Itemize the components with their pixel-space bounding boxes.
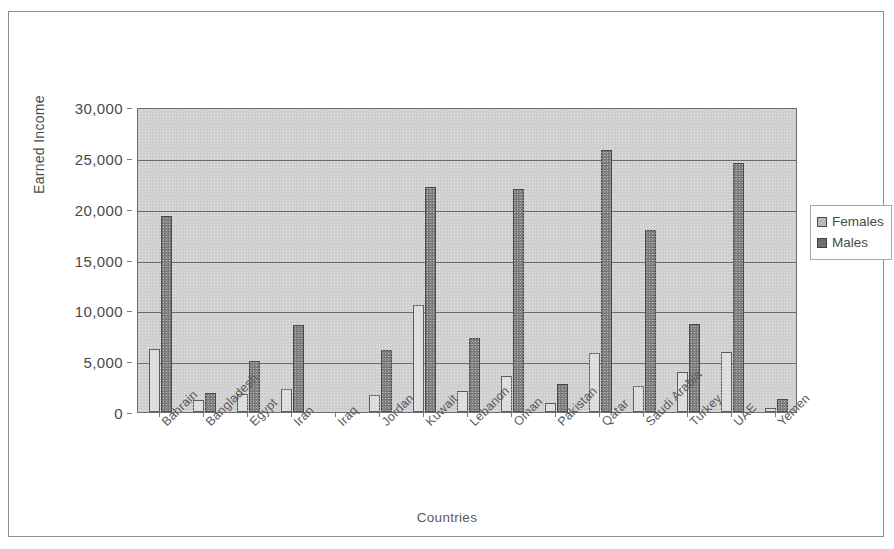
y-axis-tick bbox=[127, 159, 132, 160]
bar-males bbox=[469, 338, 480, 412]
bar-group bbox=[446, 109, 490, 412]
bar-group bbox=[182, 109, 226, 412]
bar-group bbox=[314, 109, 358, 412]
bar-group bbox=[578, 109, 622, 412]
y-axis-tick-label: 25,000 bbox=[75, 150, 123, 167]
bar-males bbox=[733, 163, 744, 412]
bar-females bbox=[413, 305, 424, 412]
y-axis-tick bbox=[127, 311, 132, 312]
bar-males bbox=[293, 325, 304, 412]
male-swatch-icon bbox=[817, 238, 827, 248]
bar-females bbox=[369, 395, 380, 412]
bar-group bbox=[666, 109, 710, 412]
x-axis: BahrainBangladeshEgyptIranIraqJordanKuwa… bbox=[137, 413, 797, 513]
y-axis: 30,00025,00020,00015,00010,0005,0000 bbox=[9, 12, 133, 432]
bar-group bbox=[490, 109, 534, 412]
y-axis-tick bbox=[127, 261, 132, 262]
bar-males bbox=[645, 230, 656, 412]
bar-group bbox=[534, 109, 578, 412]
bar-males bbox=[513, 189, 524, 412]
chart-legend: FemalesMales bbox=[810, 205, 892, 260]
bar-males bbox=[601, 150, 612, 412]
y-axis-tick-label: 5,000 bbox=[83, 354, 123, 371]
bar-females bbox=[545, 403, 556, 412]
bar-group bbox=[270, 109, 314, 412]
bar-males bbox=[425, 187, 436, 412]
plot-area bbox=[137, 108, 797, 413]
bar-group bbox=[622, 109, 666, 412]
legend-item[interactable]: Females bbox=[817, 211, 884, 232]
female-swatch-icon bbox=[817, 217, 827, 227]
y-axis-tick bbox=[127, 413, 132, 414]
bar-group bbox=[754, 109, 797, 412]
y-axis-tick-label: 20,000 bbox=[75, 201, 123, 218]
y-axis-tick-label: 30,000 bbox=[75, 100, 123, 117]
legend-item-label: Males bbox=[832, 235, 868, 250]
bars-layer bbox=[138, 109, 796, 412]
bar-males bbox=[381, 350, 392, 412]
legend-item[interactable]: Males bbox=[817, 232, 884, 253]
bar-females bbox=[281, 389, 292, 412]
y-axis-tick-label: 10,000 bbox=[75, 303, 123, 320]
x-axis-title: Countries bbox=[9, 510, 885, 525]
bar-males bbox=[161, 216, 172, 412]
bar-females bbox=[633, 386, 644, 412]
chart-frame: 30,00025,00020,00015,00010,0005,0000 Ear… bbox=[8, 11, 884, 537]
bar-group bbox=[138, 109, 182, 412]
bar-females bbox=[765, 408, 776, 412]
bar-females bbox=[149, 349, 160, 412]
legend-item-label: Females bbox=[832, 214, 884, 229]
y-axis-tick-label: 0 bbox=[114, 405, 123, 422]
bar-group bbox=[710, 109, 754, 412]
y-axis-title: Earned Income bbox=[31, 95, 47, 194]
bar-group bbox=[226, 109, 270, 412]
bar-group bbox=[358, 109, 402, 412]
y-axis-tick bbox=[127, 210, 132, 211]
y-axis-tick bbox=[127, 362, 132, 363]
y-axis-tick bbox=[127, 108, 132, 109]
y-axis-tick-label: 15,000 bbox=[75, 252, 123, 269]
bar-group bbox=[402, 109, 446, 412]
